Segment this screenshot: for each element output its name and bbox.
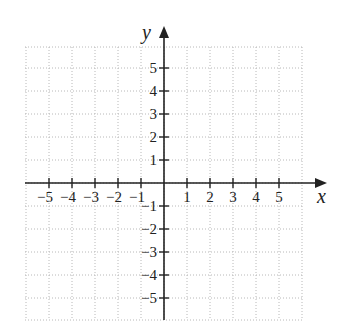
x-tick-label: 5 (275, 189, 283, 205)
y-axis-arrow-icon (159, 26, 169, 38)
y-tick-label: −1 (141, 198, 157, 214)
y-tick-label: 1 (150, 152, 158, 168)
y-tick-label: −4 (141, 267, 157, 283)
x-tick-label: 2 (206, 189, 214, 205)
y-axis-label: y (140, 21, 151, 44)
x-axis-label: x (316, 185, 326, 207)
y-tick-label: −2 (141, 221, 157, 237)
y-tick-label: 3 (150, 106, 158, 122)
y-tick-label: −3 (141, 244, 157, 260)
x-tick-label: −4 (60, 189, 76, 205)
axes (25, 26, 327, 320)
x-ticks: −5−4−3−2−112345 (37, 178, 283, 205)
y-tick-label: 4 (150, 83, 158, 99)
x-tick-label: 4 (252, 189, 260, 205)
coordinate-plane: −5−4−3−2−112345 −5−4−3−2−112345 x y (0, 0, 339, 331)
x-tick-label: −5 (37, 189, 53, 205)
x-tick-label: −3 (83, 189, 99, 205)
y-tick-label: 2 (150, 129, 158, 145)
x-tick-label: 3 (229, 189, 237, 205)
x-tick-label: 1 (183, 189, 191, 205)
y-tick-label: 5 (150, 60, 158, 76)
y-tick-label: −5 (141, 290, 157, 306)
x-tick-label: −2 (106, 189, 122, 205)
